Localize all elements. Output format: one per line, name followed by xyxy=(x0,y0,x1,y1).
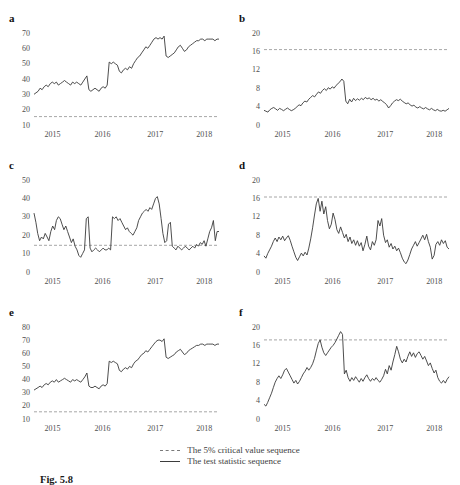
panel-chart-f: f0481216202015201620172018 xyxy=(230,297,460,444)
figure-legend: The 5% critical value sequence The test … xyxy=(160,445,299,467)
chart-panel-e: e10203040506070802015201620172018 xyxy=(0,297,230,444)
test-statistic-line xyxy=(34,339,219,390)
x-tick-label: 2018 xyxy=(426,424,442,433)
chart-panel-d: d0481216202015201620172018 xyxy=(230,150,460,297)
y-tick-label: 10 xyxy=(22,415,30,424)
x-tick-label: 2015 xyxy=(275,424,291,433)
y-tick-label: 50 xyxy=(22,176,30,185)
y-tick-label: 40 xyxy=(22,375,30,384)
y-tick-label: 8 xyxy=(256,378,260,387)
panel-chart-a: a102030405060702015201620172018 xyxy=(0,3,230,150)
x-tick-label: 2015 xyxy=(275,277,291,286)
y-tick-label: 4 xyxy=(256,249,260,258)
y-tick-label: 0 xyxy=(256,121,260,130)
test-statistic-line xyxy=(264,198,449,263)
test-statistic-line xyxy=(264,79,449,112)
y-tick-label: 0 xyxy=(256,415,260,424)
test-statistic-line xyxy=(264,332,449,407)
x-tick-label: 2018 xyxy=(196,130,212,139)
figure-caption: Fig. 5.8 xyxy=(40,474,460,485)
legend-label-critical-value: The 5% critical value sequence xyxy=(187,445,299,456)
x-tick-label: 2016 xyxy=(325,424,341,433)
x-tick-label: 2017 xyxy=(377,277,393,286)
legend-label-test-statistic: The test statistic sequence xyxy=(187,456,281,467)
y-tick-label: 10 xyxy=(22,249,30,258)
x-tick-label: 2017 xyxy=(147,130,163,139)
y-tick-label: 20 xyxy=(22,401,30,410)
y-tick-label: 16 xyxy=(252,47,260,56)
y-tick-label: 16 xyxy=(252,194,260,203)
panel-chart-c: c010203040502015201620172018 xyxy=(0,150,230,297)
y-tick-label: 4 xyxy=(256,102,260,111)
y-tick-label: 60 xyxy=(22,349,30,358)
y-tick-label: 12 xyxy=(252,359,260,368)
panel-letter-c: c xyxy=(9,159,14,171)
panel-letter-b: b xyxy=(239,12,245,24)
x-tick-label: 2018 xyxy=(426,277,442,286)
panel-letter-d: d xyxy=(239,159,245,171)
legend-item-test-statistic: The test statistic sequence xyxy=(160,456,281,467)
y-tick-label: 16 xyxy=(252,341,260,350)
x-tick-label: 2015 xyxy=(45,130,61,139)
x-tick-label: 2015 xyxy=(45,277,61,286)
y-tick-label: 20 xyxy=(252,176,260,185)
chart-panel-b: b0481216202015201620172018 xyxy=(230,3,460,150)
y-tick-label: 60 xyxy=(22,44,30,53)
x-tick-label: 2016 xyxy=(325,130,341,139)
panel-grid: a102030405060702015201620172018b04812162… xyxy=(0,0,460,444)
x-tick-label: 2015 xyxy=(45,424,61,433)
chart-panel-c: c010203040502015201620172018 xyxy=(0,150,230,297)
y-tick-label: 4 xyxy=(256,396,260,405)
y-tick-label: 50 xyxy=(22,362,30,371)
x-tick-label: 2018 xyxy=(196,424,212,433)
x-tick-label: 2018 xyxy=(196,277,212,286)
x-tick-label: 2017 xyxy=(377,424,393,433)
solid-line-sample-icon xyxy=(160,461,180,462)
y-tick-label: 70 xyxy=(22,336,30,345)
y-tick-label: 8 xyxy=(256,84,260,93)
y-tick-label: 70 xyxy=(22,29,30,38)
x-tick-label: 2015 xyxy=(275,130,291,139)
y-tick-label: 20 xyxy=(252,323,260,332)
y-tick-label: 20 xyxy=(22,105,30,114)
test-statistic-line xyxy=(34,36,219,94)
y-tick-label: 30 xyxy=(22,212,30,221)
x-tick-label: 2016 xyxy=(325,277,341,286)
y-tick-label: 50 xyxy=(22,59,30,68)
y-tick-label: 12 xyxy=(252,212,260,221)
y-tick-label: 20 xyxy=(22,231,30,240)
y-tick-label: 0 xyxy=(26,268,30,277)
y-tick-label: 40 xyxy=(22,75,30,84)
y-tick-label: 30 xyxy=(22,388,30,397)
y-tick-label: 8 xyxy=(256,231,260,240)
y-tick-label: 12 xyxy=(252,65,260,74)
panel-chart-b: b0481216202015201620172018 xyxy=(230,3,460,150)
y-tick-label: 20 xyxy=(252,29,260,38)
test-statistic-line xyxy=(34,197,219,258)
y-tick-label: 80 xyxy=(22,323,30,332)
x-tick-label: 2017 xyxy=(377,130,393,139)
legend-item-critical-value: The 5% critical value sequence xyxy=(160,445,299,456)
panel-chart-d: d0481216202015201620172018 xyxy=(230,150,460,297)
x-tick-label: 2016 xyxy=(95,277,111,286)
panel-letter-f: f xyxy=(239,306,243,318)
panel-letter-a: a xyxy=(9,12,15,24)
x-tick-label: 2018 xyxy=(426,130,442,139)
y-tick-label: 40 xyxy=(22,194,30,203)
x-tick-label: 2017 xyxy=(147,424,163,433)
caption-label: Fig. 5.8 xyxy=(40,474,73,485)
y-tick-label: 10 xyxy=(22,121,30,130)
y-tick-label: 30 xyxy=(22,90,30,99)
panel-chart-e: e10203040506070802015201620172018 xyxy=(0,297,230,444)
x-tick-label: 2017 xyxy=(147,277,163,286)
panel-letter-e: e xyxy=(9,306,14,318)
chart-panel-a: a102030405060702015201620172018 xyxy=(0,3,230,150)
y-tick-label: 0 xyxy=(256,268,260,277)
figure: a102030405060702015201620172018b04812162… xyxy=(0,0,460,485)
x-tick-label: 2016 xyxy=(95,424,111,433)
chart-panel-f: f0481216202015201620172018 xyxy=(230,297,460,444)
x-tick-label: 2016 xyxy=(95,130,111,139)
dashed-line-sample-icon xyxy=(160,450,180,451)
